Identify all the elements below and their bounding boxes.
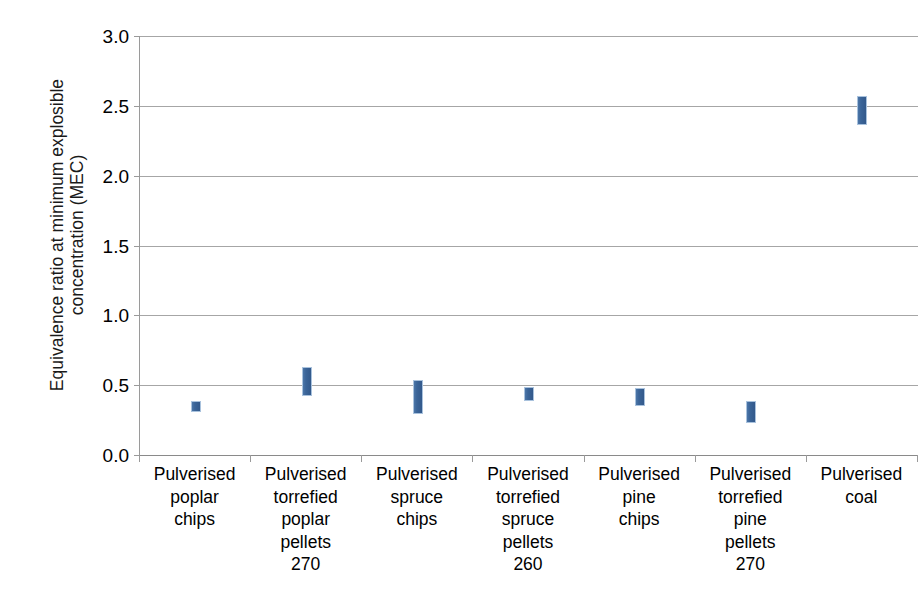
category-label-1-line-1: torrefied (250, 486, 361, 509)
category-label-0-line-2: chips (139, 508, 250, 531)
y-tick-label-1.0: 1.0 (103, 306, 129, 325)
category-axis: PulverisedpoplarchipsPulverisedtorrefied… (139, 455, 917, 608)
plot-area: 0.00.51.01.52.02.53.0 (139, 36, 917, 455)
category-label-3-line-0: Pulverised (472, 463, 583, 486)
gridline-2.5 (140, 106, 918, 107)
category-label-0-line-1: poplar (139, 486, 250, 509)
bar-3 (524, 387, 534, 401)
bar-1 (302, 367, 312, 396)
category-label-3-line-2: spruce (472, 508, 583, 531)
category-label-1-line-4: 270 (250, 553, 361, 576)
category-label-5: Pulverisedtorrefiedpinepellets270 (695, 463, 806, 576)
category-tick-0 (139, 455, 140, 462)
category-label-1: Pulverisedtorrefiedpoplarpellets270 (250, 463, 361, 576)
category-label-2-line-2: chips (361, 508, 472, 531)
category-tick-5 (695, 455, 696, 462)
category-label-0: Pulverisedpoplarchips (139, 463, 250, 531)
bar-2 (413, 380, 423, 415)
category-label-5-line-1: torrefied (695, 486, 806, 509)
category-tick-1 (250, 455, 251, 462)
category-tick-7 (917, 455, 918, 462)
category-label-5-line-3: pellets (695, 531, 806, 554)
y-tick-mark-0.5 (134, 385, 140, 386)
category-label-2-line-0: Pulverised (361, 463, 472, 486)
y-tick-mark-1.5 (134, 246, 140, 247)
category-label-3-line-1: torrefied (472, 486, 583, 509)
y-tick-mark-2.5 (134, 106, 140, 107)
category-label-4-line-2: chips (584, 508, 695, 531)
y-tick-mark-3.0 (134, 36, 140, 37)
y-tick-label-0.5: 0.5 (103, 376, 129, 395)
y-tick-label-0.0: 0.0 (103, 446, 129, 465)
category-label-4: Pulverisedpinechips (584, 463, 695, 531)
category-label-2-line-1: spruce (361, 486, 472, 509)
category-label-1-line-2: poplar (250, 508, 361, 531)
gridline-1.0 (140, 315, 918, 316)
y-tick-mark-2.0 (134, 176, 140, 177)
y-tick-label-3.0: 3.0 (103, 27, 129, 46)
category-tick-3 (472, 455, 473, 462)
bar-0 (191, 401, 201, 412)
category-tick-4 (584, 455, 585, 462)
y-tick-label-2.5: 2.5 (103, 96, 129, 115)
category-label-1-line-3: pellets (250, 531, 361, 554)
y-tick-label-2.0: 2.0 (103, 166, 129, 185)
gridline-1.5 (140, 246, 918, 247)
category-label-2: Pulverisedsprucechips (361, 463, 472, 531)
category-label-4-line-1: pine (584, 486, 695, 509)
category-label-6-line-1: coal (806, 486, 917, 509)
y-tick-label-1.5: 1.5 (103, 236, 129, 255)
category-label-5-line-0: Pulverised (695, 463, 806, 486)
y-axis-title-line-2: concentration (MEC) (67, 155, 87, 315)
category-label-0-line-0: Pulverised (139, 463, 250, 486)
category-label-6: Pulverisedcoal (806, 463, 917, 508)
category-tick-6 (806, 455, 807, 462)
bar-6 (857, 96, 867, 125)
category-label-6-line-0: Pulverised (806, 463, 917, 486)
category-label-3-line-3: pellets (472, 531, 583, 554)
chart-figure: Equivalence ratio at minimum explosible … (0, 0, 919, 608)
category-label-3: Pulverisedtorrefiedsprucepellets260 (472, 463, 583, 576)
category-label-5-line-2: pine (695, 508, 806, 531)
category-label-3-line-4: 260 (472, 553, 583, 576)
y-axis-title: Equivalence ratio at minimum explosible … (50, 0, 84, 470)
category-label-4-line-0: Pulverised (584, 463, 695, 486)
category-tick-2 (361, 455, 362, 462)
gridline-2.0 (140, 176, 918, 177)
bar-5 (746, 401, 756, 423)
y-tick-mark-1.0 (134, 315, 140, 316)
gridline-3.0 (140, 36, 918, 37)
category-label-5-line-4: 270 (695, 553, 806, 576)
category-label-1-line-0: Pulverised (250, 463, 361, 486)
bar-4 (635, 388, 645, 406)
y-axis-title-line-1: Equivalence ratio at minimum explosible (47, 79, 67, 391)
